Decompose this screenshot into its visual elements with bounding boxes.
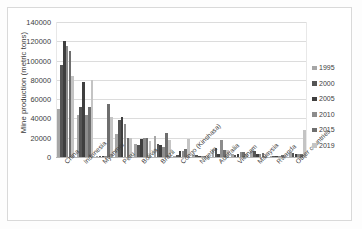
legend-item[interactable]: 2019 <box>312 138 356 154</box>
bar-group <box>288 22 307 157</box>
plot-area <box>56 22 307 157</box>
legend-label: 1995 <box>319 64 335 71</box>
legend-item[interactable]: 2000 <box>312 76 356 92</box>
y-tick-label: 20000 <box>7 134 51 143</box>
legend-label: 2000 <box>319 80 335 87</box>
y-tick-label: 140000 <box>7 18 51 27</box>
legend-swatch-icon <box>312 143 317 148</box>
bar-group <box>172 22 191 157</box>
y-tick-label: 40000 <box>7 114 51 123</box>
bar-group <box>268 22 287 157</box>
y-tick-label: 100000 <box>7 57 51 66</box>
bar-group <box>230 22 249 157</box>
legend-label: 2015 <box>319 126 335 133</box>
bar-group <box>153 22 172 157</box>
legend-swatch-icon <box>312 128 317 133</box>
legend-item[interactable]: 1995 <box>312 60 356 76</box>
bar <box>71 76 74 157</box>
bar <box>91 80 94 157</box>
bar-group <box>133 22 152 157</box>
legend-swatch-icon <box>312 97 317 102</box>
legend-item[interactable]: 2010 <box>312 107 356 123</box>
legend-swatch-icon <box>312 66 317 71</box>
bar-group <box>210 22 229 157</box>
legend-item[interactable]: 2015 <box>312 122 356 138</box>
bar-chart: Mine production (metric tons) 0200004000… <box>0 0 362 229</box>
bar-group <box>75 22 94 157</box>
legend-item[interactable]: 2005 <box>312 91 356 107</box>
legend-swatch-icon <box>312 112 317 117</box>
bar-group <box>114 22 133 157</box>
bar-group <box>95 22 114 157</box>
legend-swatch-icon <box>312 81 317 86</box>
bar-group <box>249 22 268 157</box>
y-tick-label: 120000 <box>7 37 51 46</box>
legend-label: 2019 <box>319 142 335 149</box>
y-tick-label: 0 <box>7 153 51 162</box>
legend-label: 2005 <box>319 95 335 102</box>
bar-group <box>56 22 75 157</box>
y-tick-label: 60000 <box>7 95 51 104</box>
y-tick-label: 80000 <box>7 76 51 85</box>
chart-legend: 199520002005201020152019 <box>312 60 356 153</box>
legend-label: 2010 <box>319 111 335 118</box>
